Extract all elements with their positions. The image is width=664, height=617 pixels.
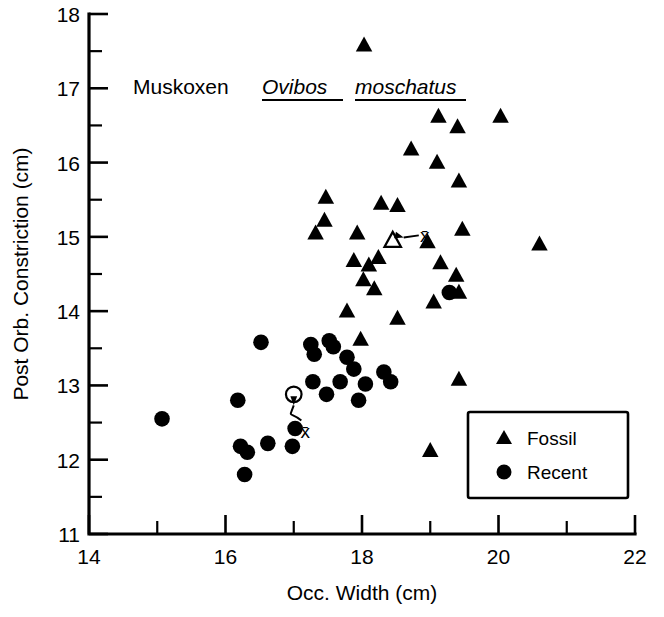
data-point-fossil [454,221,471,236]
mean-annotations: x̄x̄ [286,225,430,442]
y-axis: 1112131415161718 [57,3,108,546]
series-recent-markers [154,285,457,483]
data-point-fossil [352,331,369,346]
data-point-recent [351,392,367,408]
chart-title-species: moschatus [355,75,457,98]
x-axis: 1416182022 [77,515,646,568]
data-point-fossil [339,302,356,317]
plot-canvas: 1112131415161718 1416182022 Occ. Width (… [0,0,664,617]
data-point-fossil [356,37,373,52]
data-point-fossil [451,172,468,187]
scatter-plot-figure: 1112131415161718 1416182022 Occ. Width (… [0,0,664,617]
data-point-recent [332,374,348,390]
x-tick-label: 16 [214,545,237,568]
chart-title-genus: Ovibos [262,75,328,98]
y-tick-label: 16 [57,152,80,175]
data-point-fossil [451,371,468,386]
data-point-fossil [432,254,449,269]
data-point-recent [319,387,335,403]
legend-box [468,412,628,498]
data-point-fossil [430,108,447,123]
x-tick-label: 20 [487,545,510,568]
y-axis-title: Post Orb. Constriction (cm) [9,147,32,400]
x-tick-label: 14 [77,545,101,568]
data-point-fossil [355,271,372,286]
y-tick-label: 11 [58,523,80,546]
data-point-recent [260,436,276,452]
data-point-recent [240,444,256,460]
y-tick-label: 15 [57,226,80,249]
legend: Fossil Recent [468,412,628,498]
data-point-fossil [389,310,406,325]
chart-title: Muskoxen Ovibos moschatus [133,75,466,100]
data-point-fossil [531,236,548,251]
legend-label-fossil: Fossil [527,428,577,449]
data-point-recent [253,335,269,351]
data-point-recent [154,411,170,427]
data-point-fossil [425,294,442,309]
data-point-fossil [346,252,363,267]
data-point-recent [230,392,246,408]
y-tick-label: 14 [57,300,81,323]
legend-label-recent: Recent [527,462,588,483]
data-point-recent [326,339,342,355]
data-point-fossil [492,108,509,123]
y-tick-label: 17 [57,77,80,100]
data-point-fossil [318,189,335,204]
data-point-recent [237,467,253,483]
x-tick-label: 22 [623,545,646,568]
data-point-recent [346,361,362,377]
data-point-fossil [422,442,439,457]
data-point-fossil [370,249,387,264]
y-tick-label: 13 [57,374,80,397]
data-point-fossil [449,118,466,133]
data-point-fossil [316,212,333,227]
chart-title-plain: Muskoxen [133,75,229,98]
data-point-fossil [349,224,366,239]
data-point-recent [358,376,374,392]
data-point-fossil [389,197,406,212]
data-point-recent [285,439,301,455]
data-point-recent [306,346,322,362]
data-point-fossil [373,195,390,210]
legend-circle-icon [497,465,512,480]
data-point-recent [442,285,458,301]
data-point-fossil [403,141,420,156]
recent-mean-label: x̄ [301,421,311,442]
x-axis-title: Occ. Width (cm) [287,581,438,604]
data-point-fossil [429,154,446,169]
x-tick-label: 18 [350,545,373,568]
recent-mean-leader-line [291,405,302,420]
data-point-fossil [448,267,465,282]
data-point-recent [305,374,321,390]
fossil-mean-leader-line [404,235,419,237]
y-tick-label: 18 [57,3,80,26]
data-point-recent [383,374,399,390]
fossil-mean-label: x̄ [420,225,430,246]
y-tick-label: 12 [57,449,80,472]
